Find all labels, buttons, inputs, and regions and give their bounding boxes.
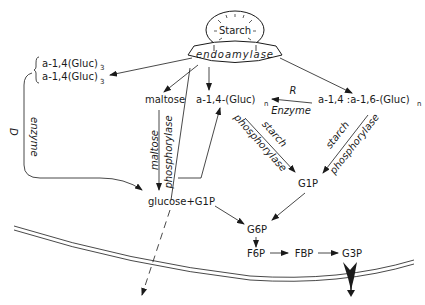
a14-a16-glucn-node: a-1,4 :a-1,6-(Gluc) n [318,94,421,108]
svg-text:R: R [290,85,297,96]
svg-text:enzyme: enzyme [29,117,40,157]
g6p-node: G6P [247,224,267,235]
endoamylase-banner: endoamylase [188,41,282,63]
svg-text:n: n [264,100,268,108]
svg-text:maltose: maltose [149,130,160,170]
a14-glucn-node: a-1,4-(Gluc) n [196,94,268,108]
export-dashed-arrow [142,210,170,295]
starch-phosphorylase-left-label: starch phosphorylase [231,111,289,173]
g1p-node: G1P [298,178,318,189]
g1p-to-g6p-arrow [272,193,305,220]
g3p-export-arrow [343,262,357,297]
r-enzyme: R Enzyme [271,85,312,116]
svg-text:Enzyme: Enzyme [271,105,311,116]
endoamylase-label: endoamylase [196,49,274,60]
svg-text:3: 3 [100,64,104,72]
svg-text:phosphorylase: phosphorylase [163,115,174,189]
svg-text:a-1,4(Gluc): a-1,4(Gluc) [42,58,98,69]
recycle-arrow [178,108,220,178]
glucose-to-g6p-arrow [215,206,244,224]
svg-text:3: 3 [100,78,104,86]
svg-text:a-1,4-(Gluc): a-1,4-(Gluc) [196,94,256,105]
starch-phosphorylase-right-label: starch phosphorylase [323,112,381,177]
svg-text:D: D [8,128,19,136]
f6p-node: F6P [247,248,265,259]
maltose-phosphorylase-label: maltose phosphorylase [149,115,174,189]
starch-label: Starch [219,25,251,36]
fbp-node: FBP [295,248,314,259]
gluc3-products: a-1,4(Gluc) 3 a-1,4(Gluc) 3 [34,57,104,86]
glucose-g1p-node: glucose+G1P [148,196,215,207]
d-enzyme-pathway: D enzyme [8,73,142,190]
svg-text:a-1,4(Gluc): a-1,4(Gluc) [42,71,98,82]
g3p-node: G3P [342,248,362,259]
svg-text:n: n [417,100,421,108]
starch-degradation-diagram: Starch endoamylase a-1,4(Gluc) 3 a-1,4(G… [0,0,425,305]
svg-text:a-1,4 :a-1,6-(Gluc): a-1,4 :a-1,6-(Gluc) [318,94,410,105]
maltose-node: maltose [145,94,185,105]
